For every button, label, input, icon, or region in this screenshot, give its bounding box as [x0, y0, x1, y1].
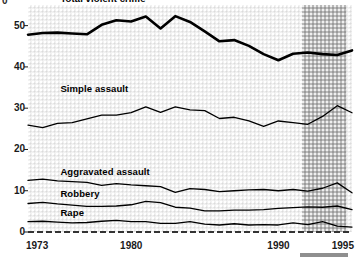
series-line-simple-assault: [28, 106, 352, 128]
series-lines-overlay: [0, 0, 362, 259]
victimization-rate-line-chart: 0 01020304050 1973198019901995 Total vio…: [0, 0, 362, 259]
corner-swatch: [300, 253, 348, 257]
series-line-total-violent-crime: [28, 16, 352, 60]
series-line-rape: [28, 220, 352, 227]
series-line-aggravated-assault: [28, 179, 352, 193]
series-line-robbery: [28, 201, 352, 210]
